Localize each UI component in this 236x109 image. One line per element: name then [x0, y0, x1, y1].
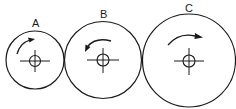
gear-c: C	[143, 2, 236, 107]
gear-b: B	[65, 8, 142, 99]
clockwise-arrow-icon	[17, 38, 35, 55]
clockwise-arrow-icon	[168, 33, 203, 45]
gear-c-label: C	[185, 2, 193, 14]
gear-b-label: B	[100, 8, 107, 20]
gear-train-diagram: A B C	[0, 0, 236, 109]
gear-a-label: A	[32, 17, 40, 29]
gear-a: A	[6, 17, 64, 89]
counterclockwise-arrow-icon	[85, 40, 111, 52]
